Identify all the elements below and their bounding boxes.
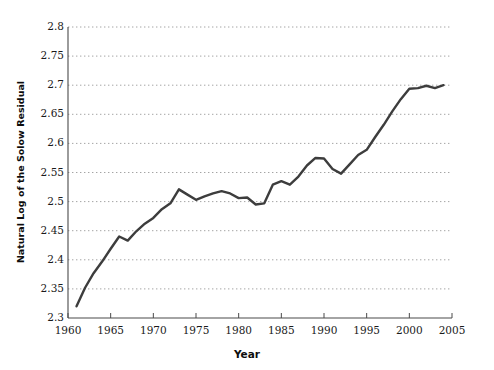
x-tick-label: 1980: [215, 325, 263, 336]
y-tick-label: 2.55: [20, 167, 64, 178]
y-tick-label: 2.6: [20, 137, 64, 148]
y-tick-label: 2.45: [20, 225, 64, 236]
y-tick-label: 2.4: [20, 254, 64, 265]
x-tick-label: 1965: [87, 325, 135, 336]
gridline-group: [68, 27, 452, 289]
x-tick-label: 1995: [343, 325, 391, 336]
x-tick-label: 1970: [129, 325, 177, 336]
x-tick-label: 1960: [44, 325, 92, 336]
x-tick-label: 1985: [257, 325, 305, 336]
y-tick-label: 2.5: [20, 196, 64, 207]
x-tick-label: 2005: [428, 325, 476, 336]
y-tick-label: 2.65: [20, 108, 64, 119]
x-tick-label: 1990: [300, 325, 348, 336]
solow-residual-line: [77, 85, 444, 306]
y-tick-label: 2.7: [20, 79, 64, 90]
solow-residual-line-chart: Natural Log of the Solow Residual 2.32.3…: [0, 0, 494, 370]
chart-canvas: Natural Log of the Solow Residual: [0, 0, 494, 370]
y-tick-label: 2.3: [20, 312, 64, 323]
x-tick-group: [68, 313, 452, 318]
data-series-group: [77, 85, 444, 306]
y-tick-label: 2.35: [20, 283, 64, 294]
x-axis-title: Year: [0, 348, 494, 360]
y-tick-label: 2.8: [20, 21, 64, 32]
x-tick-label: 1975: [172, 325, 220, 336]
x-tick-label: 2000: [385, 325, 433, 336]
y-tick-label: 2.75: [20, 50, 64, 61]
